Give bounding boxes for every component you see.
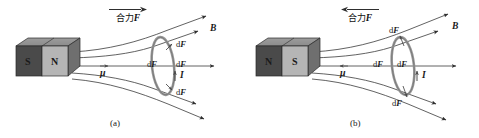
df-text-a-3: dF: [176, 59, 186, 69]
diagram-panel-a: 合力F S N μ B I dF dF dF dF (a): [0, 0, 239, 138]
magnet-pole-left-a: S: [25, 57, 31, 67]
df-text-b-2: dF: [373, 59, 383, 69]
df-text-a-2: dF: [147, 59, 157, 69]
df-text-b-1: dF: [389, 25, 399, 35]
current-label-b: I: [422, 71, 426, 81]
df-label-b-2: dF: [373, 60, 383, 69]
field-label-a: B: [210, 24, 216, 34]
current-label-a: I: [180, 71, 184, 81]
resultant-force-label-b: 合力F: [332, 14, 388, 24]
df-label-b-1: dF: [389, 26, 399, 35]
df-label-a-3: dF: [176, 60, 186, 69]
df-label-a-2: dF: [147, 60, 157, 69]
resultant-force-b: 合力F: [332, 6, 388, 24]
df-text-b-4: dF: [392, 98, 402, 108]
magnet-pole-left-b: N: [265, 57, 272, 67]
resultant-force-arrow-right-icon: [108, 6, 148, 13]
resultant-force-arrow-left-icon: [340, 6, 380, 13]
field-lines-lower: [312, 73, 446, 120]
df-text-b-3: dF: [397, 59, 407, 69]
caption-b: (b): [350, 118, 361, 128]
magnet-pole-right-b: S: [292, 57, 298, 67]
magnetic-moment-label-b: μ: [340, 68, 346, 78]
resultant-force-symbol-b: F: [366, 13, 372, 23]
magnetic-moment-label-a: μ: [100, 68, 106, 78]
df-text-a-1: dF: [176, 39, 186, 49]
df-label-a-4: dF: [176, 88, 186, 97]
magnet-pole-right-a: N: [51, 57, 58, 67]
resultant-force-text-a: 合力: [116, 13, 134, 23]
df-label-a-1: dF: [176, 40, 186, 49]
resultant-force-a: 合力F: [100, 6, 156, 24]
df-label-b-4: dF: [392, 99, 402, 108]
caption-a: (a): [110, 118, 120, 128]
df-label-b-3: dF: [397, 60, 407, 69]
field-label-b: B: [452, 22, 458, 32]
figure-root: 合力F S N μ B I dF dF dF dF (a): [0, 0, 479, 138]
df-text-a-4: dF: [176, 87, 186, 97]
diagram-panel-b: 合力F N S μ B I dF dF dF dF (b): [240, 0, 479, 138]
resultant-force-label-a: 合力F: [100, 14, 156, 24]
resultant-force-symbol-a: F: [134, 13, 140, 23]
resultant-force-text-b: 合力: [348, 13, 366, 23]
